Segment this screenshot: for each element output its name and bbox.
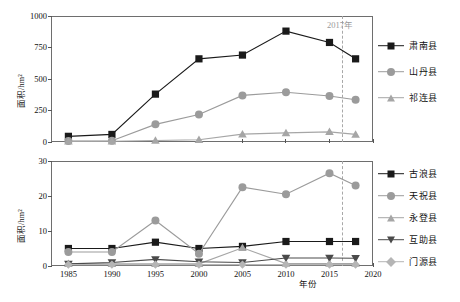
legend-marker-square-icon	[388, 170, 395, 177]
legend-marker-circle-icon	[387, 68, 395, 76]
legend-label: 互助县	[409, 233, 438, 246]
legend-line-sample	[378, 217, 404, 219]
legend-label: 肃南县	[409, 39, 438, 52]
data-point-marker	[238, 183, 246, 191]
data-point-marker	[326, 238, 333, 245]
series-天祝县	[64, 169, 359, 258]
data-point-marker	[151, 260, 159, 268]
data-point-marker	[282, 238, 289, 245]
data-point-marker	[151, 217, 159, 225]
figure-root: 面积/hm² 10007505002500 2017年 面积/hm² 30201…	[0, 0, 460, 302]
legend-line-sample	[378, 45, 404, 47]
legend-marker-triangle-icon	[387, 94, 395, 101]
legend-label: 永登县	[409, 211, 438, 224]
legend-item-古浪县[interactable]: 古浪县	[378, 168, 438, 179]
legend-marker-triangle-down-icon	[387, 236, 395, 243]
data-point-marker	[352, 238, 359, 245]
data-point-marker	[152, 239, 159, 246]
legend-line-sample	[378, 195, 404, 197]
legend-marker-triangle-icon	[387, 214, 395, 221]
data-point-marker	[108, 248, 116, 256]
data-point-marker	[195, 250, 203, 258]
legend-line-sample	[378, 71, 404, 73]
data-point-marker	[282, 190, 290, 198]
legend-item-天祝县[interactable]: 天祝县	[378, 190, 438, 201]
data-point-marker	[325, 260, 333, 268]
legend-item-山丹县[interactable]: 山丹县	[378, 66, 438, 77]
legend-label: 祁连县	[409, 91, 438, 104]
data-point-marker	[352, 182, 360, 190]
data-point-marker	[282, 260, 290, 268]
legend-item-祁连县[interactable]: 祁连县	[378, 92, 438, 103]
legend-label: 山丹县	[409, 65, 438, 78]
legend-line-sample	[378, 173, 404, 175]
legend-label: 门源县	[409, 255, 438, 268]
legend-marker-square-icon	[388, 42, 395, 49]
data-point-marker	[325, 169, 333, 177]
legend-label: 天祝县	[409, 189, 438, 202]
legend-label: 古浪县	[409, 167, 438, 180]
legend-marker-diamond-icon	[386, 257, 396, 267]
legend-line-sample	[378, 97, 404, 99]
legend-item-永登县[interactable]: 永登县	[378, 212, 438, 223]
legend-item-肃南县[interactable]: 肃南县	[378, 40, 438, 51]
legend-item-互助县[interactable]: 互助县	[378, 234, 438, 245]
legend-item-门源县[interactable]: 门源县	[378, 256, 438, 267]
data-point-marker	[351, 260, 359, 268]
legend-line-sample	[378, 261, 404, 263]
data-point-marker	[64, 248, 72, 256]
legend-marker-circle-icon	[387, 192, 395, 200]
legend-line-sample	[378, 239, 404, 241]
